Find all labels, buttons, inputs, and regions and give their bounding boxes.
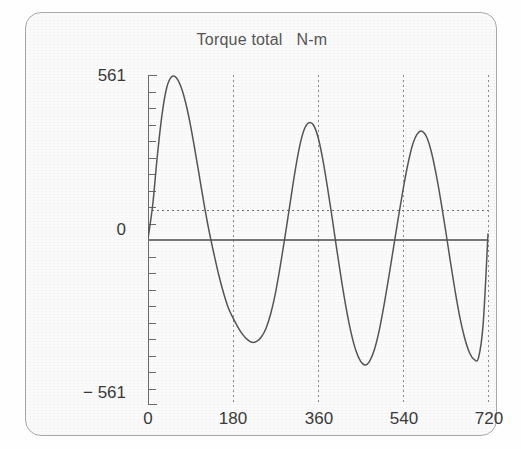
y-axis-minor-ticks: [149, 93, 157, 390]
chart-title: Torque total N-m: [26, 31, 498, 49]
chart-frame: Torque total N-m 561 0 − 561 0 180 360 5…: [25, 12, 497, 436]
x-axis-label-0: 0: [103, 409, 193, 429]
x-axis-label-720: 720: [444, 409, 521, 429]
x-axis-label-540: 540: [359, 409, 449, 429]
plot-area: [148, 75, 489, 405]
y-axis-label-max: 561: [54, 66, 126, 86]
y-axis-label-min: − 561: [36, 383, 126, 403]
x-axis-label-180: 180: [188, 409, 278, 429]
y-axis-label-zero: 0: [54, 220, 126, 240]
screenshot-root: Torque total N-m 561 0 − 561 0 180 360 5…: [0, 0, 521, 449]
torque-plot-svg: [148, 75, 489, 405]
x-axis-label-360: 360: [274, 409, 364, 429]
